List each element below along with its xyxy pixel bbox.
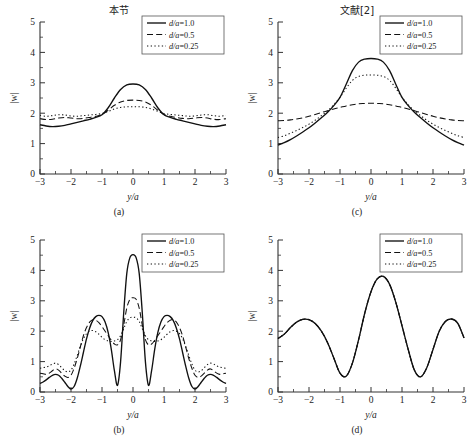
x-tick-label: 2 <box>193 395 198 405</box>
legend-label: d/a=1.0 <box>407 237 432 246</box>
curves-group <box>40 84 226 127</box>
curve-solid <box>278 58 464 145</box>
panel-b-plot: 012345−3−2−10123|w|y/ad/a=1.0d/a=0.5d/a=… <box>0 218 238 436</box>
x-tick-label: −2 <box>304 395 314 405</box>
y-tick-label: 3 <box>30 296 35 306</box>
y-tick-label: 1 <box>30 139 35 149</box>
legend: d/a=1.0d/a=0.5d/a=0.25 <box>380 16 462 54</box>
y-axis-label: |w| <box>9 93 19 104</box>
y-tick-label: 5 <box>30 17 35 27</box>
x-tick-label: 3 <box>224 177 229 187</box>
y-tick-label: 2 <box>30 327 35 337</box>
panel-c-caption: (c) <box>238 207 476 217</box>
x-tick-label: 0 <box>369 395 374 405</box>
curves-group <box>278 276 464 377</box>
legend: d/a=1.0d/a=0.5d/a=0.25 <box>142 234 224 272</box>
panel-a-title: 本节 <box>0 2 238 17</box>
curve-solid <box>40 84 226 127</box>
x-axis-label: y/a <box>126 410 139 420</box>
y-tick-label: 3 <box>268 78 273 88</box>
legend-label: d/a=0.25 <box>407 42 436 51</box>
y-tick-label: 2 <box>30 109 35 119</box>
curve-dotted <box>40 317 226 372</box>
curve-dashed <box>40 298 226 378</box>
curves-group <box>40 255 226 389</box>
x-axis-label: y/a <box>364 192 377 202</box>
x-tick-label: −3 <box>273 395 283 405</box>
y-tick-label: 1 <box>268 357 273 367</box>
panel-d: 012345−3−2−10123|w|y/ad/a=1.0d/a=0.5d/a=… <box>238 218 476 436</box>
y-axis-label: |w| <box>247 93 257 104</box>
x-tick-label: 0 <box>369 177 374 187</box>
x-tick-label: 2 <box>431 177 436 187</box>
panel-a-caption: (a) <box>0 207 238 217</box>
x-tick-label: 1 <box>162 177 167 187</box>
x-tick-label: 3 <box>462 395 467 405</box>
x-tick-label: −2 <box>66 177 76 187</box>
legend-label: d/a=1.0 <box>169 19 194 28</box>
x-tick-label: −3 <box>35 395 45 405</box>
panel-a-plot: 012345−3−2−10123|w|y/ad/a=1.0d/a=0.5d/a=… <box>0 0 238 218</box>
legend-label: d/a=0.5 <box>407 249 432 258</box>
panel-c-plot: 012345−3−2−10123|w|y/ad/a=1.0d/a=0.5d/a=… <box>238 0 476 218</box>
x-axis-label: y/a <box>126 192 139 202</box>
y-tick-label: 1 <box>30 357 35 367</box>
y-tick-label: 2 <box>268 327 273 337</box>
y-tick-label: 3 <box>30 78 35 88</box>
panel-d-plot: 012345−3−2−10123|w|y/ad/a=1.0d/a=0.5d/a=… <box>238 218 476 436</box>
curve-solid <box>40 255 226 389</box>
figure-container: 本节 012345−3−2−10123|w|y/ad/a=1.0d/a=0.5d… <box>0 0 476 436</box>
x-tick-label: 2 <box>431 395 436 405</box>
x-tick-label: 0 <box>131 177 136 187</box>
legend: d/a=1.0d/a=0.5d/a=0.25 <box>380 234 462 272</box>
x-tick-label: 1 <box>400 395 405 405</box>
legend-label: d/a=0.25 <box>169 260 198 269</box>
x-tick-label: −1 <box>335 177 345 187</box>
x-tick-label: −2 <box>66 395 76 405</box>
curve-dashed <box>278 103 464 121</box>
y-tick-label: 4 <box>268 266 273 276</box>
y-tick-label: 5 <box>268 235 273 245</box>
y-tick-label: 4 <box>30 266 35 276</box>
legend-label: d/a=0.5 <box>169 249 194 258</box>
x-tick-label: 1 <box>400 177 405 187</box>
legend: d/a=1.0d/a=0.5d/a=0.25 <box>142 16 224 54</box>
x-tick-label: 2 <box>193 177 198 187</box>
x-tick-label: −2 <box>304 177 314 187</box>
x-tick-label: −1 <box>97 177 107 187</box>
x-tick-label: −3 <box>273 177 283 187</box>
y-tick-label: 3 <box>268 296 273 306</box>
curve-dashed <box>40 100 226 119</box>
x-axis-label: y/a <box>364 410 377 420</box>
x-tick-label: −3 <box>35 177 45 187</box>
curve-dotted <box>40 107 226 116</box>
legend-label: d/a=0.25 <box>407 260 436 269</box>
panel-b-caption: (b) <box>0 425 238 435</box>
y-tick-label: 4 <box>30 48 35 58</box>
panel-a: 本节 012345−3−2−10123|w|y/ad/a=1.0d/a=0.5d… <box>0 0 238 218</box>
y-axis-label: |w| <box>247 311 257 322</box>
panel-c: 文献[2] 012345−3−2−10123|w|y/ad/a=1.0d/a=0… <box>238 0 476 218</box>
panel-b: 012345−3−2−10123|w|y/ad/a=1.0d/a=0.5d/a=… <box>0 218 238 436</box>
panel-c-title: 文献[2] <box>238 2 476 17</box>
panel-d-caption: (d) <box>238 425 476 435</box>
legend-label: d/a=0.5 <box>407 31 432 40</box>
curves-group <box>278 58 464 145</box>
x-tick-label: −1 <box>97 395 107 405</box>
y-tick-label: 4 <box>268 48 273 58</box>
curve-dashed <box>278 276 464 377</box>
curve-dotted <box>278 75 464 138</box>
x-tick-label: 1 <box>162 395 167 405</box>
legend-label: d/a=1.0 <box>169 237 194 246</box>
legend-label: d/a=0.5 <box>169 31 194 40</box>
y-tick-label: 2 <box>268 109 273 119</box>
legend-label: d/a=1.0 <box>407 19 432 28</box>
y-tick-label: 5 <box>30 235 35 245</box>
x-tick-label: −1 <box>335 395 345 405</box>
x-tick-label: 3 <box>224 395 229 405</box>
y-axis-label: |w| <box>9 311 19 322</box>
legend-label: d/a=0.25 <box>169 42 198 51</box>
y-tick-label: 1 <box>268 139 273 149</box>
y-tick-label: 5 <box>268 17 273 27</box>
x-tick-label: 3 <box>462 177 467 187</box>
